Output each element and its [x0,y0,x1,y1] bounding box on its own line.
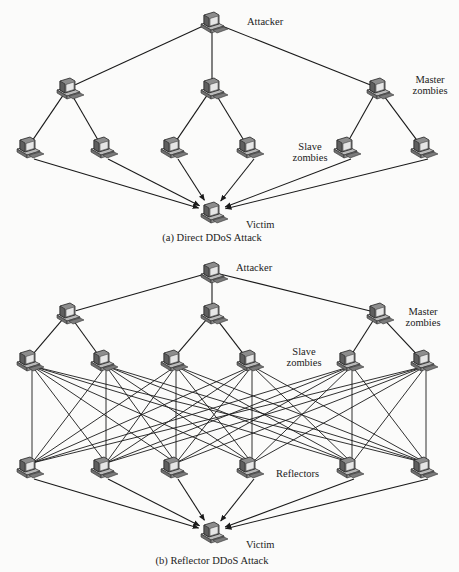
label-master-zombies-b: Master zombies [400,306,446,328]
slave-zombie-computer-icon [334,137,361,158]
master-zombie-computer-icon [201,303,228,324]
master-zombie-computer-icon [57,78,84,99]
reflector-computer-icon [337,457,364,478]
slave-zombie-computer-icon [91,350,118,371]
reflector-computer-icon [161,457,188,478]
label-victim-a: Victim [246,219,275,230]
slave-zombie-computer-icon [237,137,264,158]
caption-reflector-ddos: (b) Reflector DDoS Attack [156,555,269,566]
master-zombie-computer-icon [367,78,394,99]
attacker-computer-icon [201,12,228,33]
label-master-zombies-a: Master zombies [407,74,453,96]
ddos-diagram: Attacker Master zombies Slave zombies Vi… [0,0,459,572]
reflector-computer-icon [237,457,264,478]
victim-computer-icon [201,202,228,223]
slave-zombie-computer-icon [161,137,188,158]
victim-computer-icon [201,522,228,543]
slave-zombie-computer-icon [17,350,44,371]
reflector-computer-icon [91,457,118,478]
slave-zombie-computer-icon [161,350,188,371]
computer-nodes [0,0,459,572]
label-slave-zombies-b: Slave zombies [281,346,327,368]
attacker-computer-icon [201,262,228,283]
master-zombie-computer-icon [367,303,394,324]
label-reflectors: Reflectors [276,468,319,479]
slave-zombie-computer-icon [337,350,364,371]
caption-direct-ddos: (a) Direct DDoS Attack [162,232,261,243]
label-victim-b: Victim [246,539,275,550]
reflector-computer-icon [411,457,438,478]
slave-zombie-computer-icon [411,137,438,158]
label-attacker-a: Attacker [247,16,283,27]
label-attacker-b: Attacker [236,262,272,273]
reflector-computer-icon [17,457,44,478]
slave-zombie-computer-icon [411,350,438,371]
slave-zombie-computer-icon [91,137,118,158]
master-zombie-computer-icon [201,78,228,99]
label-slave-zombies-a: Slave zombies [287,141,333,163]
slave-zombie-computer-icon [17,137,44,158]
slave-zombie-computer-icon [237,350,264,371]
master-zombie-computer-icon [57,303,84,324]
